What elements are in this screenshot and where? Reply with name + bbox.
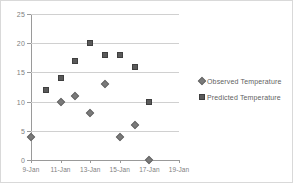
legend-item-label: Observed Temperature [207, 78, 281, 85]
data-point-square-icon [117, 52, 123, 58]
gridline [31, 14, 179, 15]
y-axis-tick [27, 72, 31, 73]
y-axis-tick [27, 14, 31, 15]
gridline [31, 160, 179, 161]
gridline [31, 72, 179, 73]
data-point-diamond-icon [116, 132, 124, 140]
data-point-square-icon [43, 87, 49, 93]
x-axis-tick [61, 160, 62, 163]
square-icon [197, 92, 207, 102]
x-axis-tick-label: 19-Jan [169, 166, 189, 173]
x-axis-tick-label: 9-Jan [23, 166, 40, 173]
data-point-square-icon [58, 75, 64, 81]
data-point-diamond-icon [130, 121, 138, 129]
legend-item[interactable]: Observed Temperature [197, 74, 291, 88]
data-point-square-icon [102, 52, 108, 58]
data-point-square-icon [146, 99, 152, 105]
data-point-diamond-icon [145, 156, 153, 164]
gridline [31, 43, 179, 44]
data-point-diamond-icon [27, 132, 35, 140]
y-axis-tick [27, 43, 31, 44]
data-point-diamond-icon [56, 97, 64, 105]
plot-area: 0510152025 9-Jan11-Jan13-Jan15-Jan17-Jan… [31, 14, 179, 160]
y-axis-tick-label: 15 [17, 69, 25, 76]
chart-legend: Observed TemperaturePredicted Temperatur… [197, 74, 291, 106]
data-point-diamond-icon [71, 92, 79, 100]
y-axis-tick-label: 20 [17, 40, 25, 47]
x-axis-tick [120, 160, 121, 163]
square-icon-glyph [199, 94, 205, 100]
data-point-diamond-icon [101, 80, 109, 88]
y-axis-tick [27, 102, 31, 103]
x-axis-tick-label: 15-Jan [110, 166, 130, 173]
legend-item[interactable]: Predicted Temperature [197, 90, 291, 104]
data-point-square-icon [87, 40, 93, 46]
y-axis-tick-label: 10 [17, 98, 25, 105]
y-axis-tick-label: 25 [17, 11, 25, 18]
data-point-square-icon [72, 58, 78, 64]
legend-item-label: Predicted Temperature [207, 94, 281, 101]
y-axis-tick-label: 5 [21, 127, 25, 134]
data-point-diamond-icon [86, 109, 94, 117]
x-axis-tick [90, 160, 91, 163]
data-point-square-icon [132, 64, 138, 70]
x-axis-tick-label: 17-Jan [139, 166, 159, 173]
chart-container: 0510152025 9-Jan11-Jan13-Jan15-Jan17-Jan… [0, 0, 293, 183]
x-axis-tick [179, 160, 180, 163]
x-axis-tick [31, 160, 32, 163]
y-axis-tick-label: 0 [21, 157, 25, 164]
diamond-icon [197, 76, 207, 86]
x-axis-tick-label: 13-Jan [80, 166, 100, 173]
x-axis-tick-label: 11-Jan [51, 166, 71, 173]
gridline [31, 131, 179, 132]
diamond-icon-glyph [198, 77, 206, 85]
gridline [31, 102, 179, 103]
